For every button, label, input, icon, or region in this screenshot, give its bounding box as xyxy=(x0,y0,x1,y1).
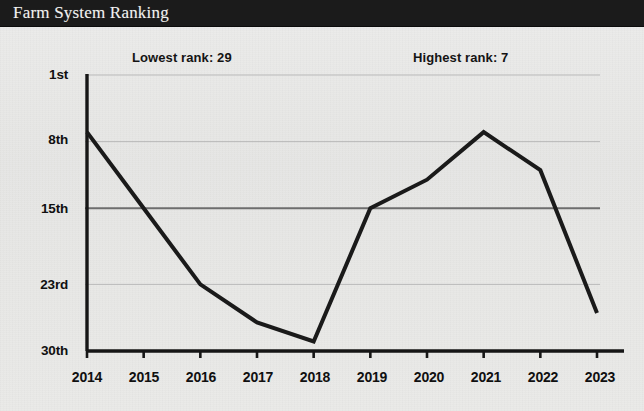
chart-page: Farm System Ranking Lowest rank: 29 High… xyxy=(0,0,644,411)
chart-plot-area: Lowest rank: 29 Highest rank: 7 1st 8th … xyxy=(0,26,644,411)
chart-data-line xyxy=(87,132,597,341)
chart-title-bar: Farm System Ranking xyxy=(0,0,644,26)
chart-gridlines xyxy=(85,75,600,284)
chart-svg xyxy=(0,26,644,411)
chart-axes xyxy=(86,74,624,351)
page-title: Farm System Ranking xyxy=(13,3,169,23)
